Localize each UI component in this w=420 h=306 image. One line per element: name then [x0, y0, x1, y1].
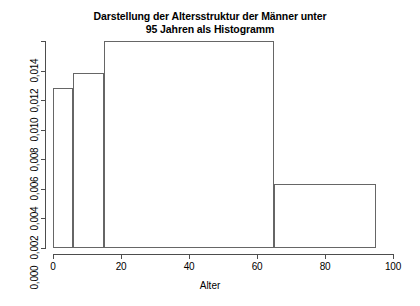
y-tick-label-5: 0,010 — [29, 118, 40, 142]
x-tick-5 — [393, 254, 394, 259]
y-tick-4 — [41, 130, 46, 131]
x-tick-4 — [325, 254, 326, 259]
x-tick-2 — [189, 254, 190, 259]
y-tick-label-2: 0,004 — [29, 207, 40, 231]
y-tick-6 — [41, 71, 46, 72]
histogram-bar — [73, 73, 104, 248]
y-tick-label-3: 0,006 — [29, 177, 40, 201]
y-tick-label-7: 0,014 — [29, 59, 40, 83]
x-tick-label-4: 80 — [305, 261, 345, 272]
y-tick-5 — [41, 100, 46, 101]
y-tick-label-1: 0,002 — [29, 236, 40, 260]
x-tick-0 — [53, 254, 54, 259]
x-tick-1 — [121, 254, 122, 259]
y-tick-7 — [41, 41, 46, 42]
histogram-plot: Darstellung der Altersstruktur der Männe… — [0, 0, 420, 306]
x-axis-title: Alter — [0, 280, 420, 291]
x-tick-label-1: 20 — [101, 261, 141, 272]
y-tick-0 — [41, 248, 46, 249]
x-tick-label-2: 40 — [169, 261, 209, 272]
x-tick-label-0: 0 — [33, 261, 73, 272]
histogram-bar — [53, 88, 73, 248]
plot-panel: 0,000 0,002 0,004 0,006 0,008 0,010 0,01… — [0, 0, 420, 306]
y-tick-2 — [41, 189, 46, 190]
histogram-bar — [274, 184, 376, 248]
y-tick-3 — [41, 159, 46, 160]
y-tick-label-6: 0,012 — [29, 89, 40, 113]
histogram-bar — [104, 41, 274, 248]
x-tick-3 — [257, 254, 258, 259]
x-tick-label-3: 60 — [237, 261, 277, 272]
y-tick-label-4: 0,008 — [29, 148, 40, 172]
x-tick-label-5: 100 — [373, 261, 413, 272]
y-tick-1 — [41, 218, 46, 219]
x-axis-line — [53, 254, 394, 255]
